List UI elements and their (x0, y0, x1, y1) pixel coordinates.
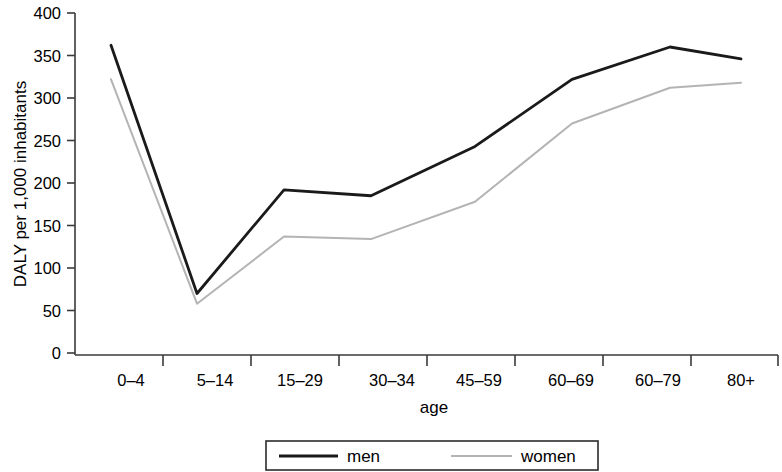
series-line-men (111, 45, 741, 293)
y-tick-label: 0 (52, 344, 61, 362)
y-tick-label: 200 (33, 174, 61, 192)
daly-by-age-line-chart: 400 350 300 250 200 150 100 50 0 DALY pe… (0, 0, 782, 472)
x-axis-tick-labels: 0–4 5–14 15–29 30–34 45–59 60–69 60–79 8… (117, 371, 755, 389)
y-axis-ticks (67, 13, 75, 353)
legend-label-women: women (520, 447, 576, 466)
x-tick-label: 0–4 (117, 371, 145, 389)
x-axis-title: age (420, 398, 448, 417)
x-tick-label: 60–69 (548, 371, 594, 389)
y-tick-label: 250 (33, 132, 61, 150)
x-tick-label: 5–14 (197, 371, 234, 389)
y-axis-tick-labels: 400 350 300 250 200 150 100 50 0 (33, 4, 61, 362)
y-tick-label: 100 (33, 259, 61, 277)
series-line-women (111, 79, 741, 303)
chart-legend: men women (266, 441, 598, 470)
x-tick-label: 30–34 (369, 371, 415, 389)
y-tick-label: 300 (33, 89, 61, 107)
x-tick-label: 60–79 (635, 371, 681, 389)
y-axis-title: DALY per 1,000 inhabitants (11, 81, 30, 287)
x-tick-label: 80+ (727, 371, 755, 389)
x-tick-label: 45–59 (456, 371, 502, 389)
y-tick-label: 150 (33, 217, 61, 235)
x-tick-label: 15–29 (277, 371, 323, 389)
y-tick-label: 350 (33, 47, 61, 65)
chart-container: 400 350 300 250 200 150 100 50 0 DALY pe… (0, 0, 782, 472)
y-tick-label: 50 (43, 302, 61, 320)
legend-label-men: men (347, 447, 380, 466)
y-tick-label: 400 (33, 4, 61, 22)
x-axis-ticks (163, 355, 778, 366)
